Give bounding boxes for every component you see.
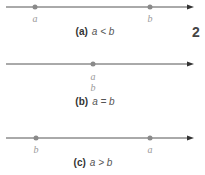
point-b xyxy=(34,136,39,141)
caption-relation: a < b xyxy=(92,26,115,37)
arrow-icon xyxy=(187,136,194,141)
caption-tag: (a) xyxy=(76,26,88,37)
point-label: b xyxy=(91,83,96,93)
caption-b: (b)a = b xyxy=(75,96,114,108)
caption-c: (c)a > b xyxy=(74,157,113,169)
number-line-c xyxy=(6,136,194,141)
point-label: b xyxy=(34,145,39,155)
caption-tag: (b) xyxy=(75,96,88,107)
point-b xyxy=(148,5,153,10)
point-ab xyxy=(91,62,96,67)
caption-a: (a)a < b xyxy=(76,26,115,38)
point-a xyxy=(148,136,153,141)
arrow-icon xyxy=(187,5,194,10)
caption-relation: a > b xyxy=(90,157,113,168)
point-label: a xyxy=(148,145,153,155)
number-line-b xyxy=(6,62,194,67)
side-number: 2 xyxy=(192,24,200,40)
point-a xyxy=(33,5,38,10)
caption-tag: (c) xyxy=(74,157,86,168)
arrow-icon xyxy=(187,62,194,67)
number-line-a xyxy=(6,5,194,10)
point-label: a xyxy=(91,72,96,82)
point-label: a xyxy=(33,14,38,24)
point-label: b xyxy=(148,14,153,24)
caption-relation: a = b xyxy=(92,96,115,107)
